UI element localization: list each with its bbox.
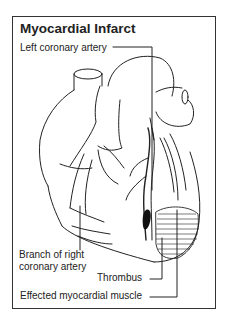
leader-muscle	[150, 210, 177, 297]
heart-illustration	[0, 0, 228, 319]
